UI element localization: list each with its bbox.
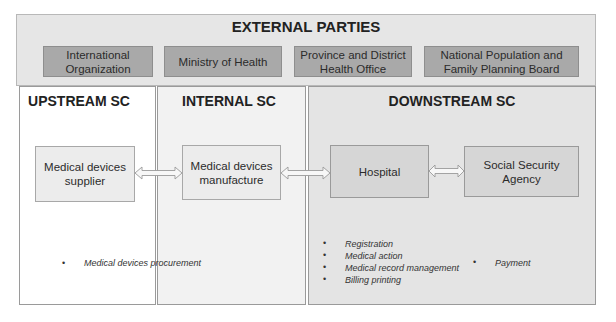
activity-text: Medical devices procurement xyxy=(84,257,201,269)
bullet: • xyxy=(62,258,84,268)
bullet: • xyxy=(323,238,345,250)
double-arrow-icon xyxy=(134,166,183,180)
node-hospital: Hospital xyxy=(330,145,429,198)
list-item: •Payment xyxy=(473,257,573,269)
upstream-title: UPSTREAM SC xyxy=(19,93,139,109)
party-province-district-health-office: Province and DistrictHealth Office xyxy=(294,46,412,77)
node-label: manufacture xyxy=(200,174,264,186)
party-ministry-of-health: Ministry of Health xyxy=(164,46,282,77)
party-label: Family Planning Board xyxy=(444,63,560,75)
bullet: • xyxy=(323,274,345,286)
party-national-population-board: National Population andFamily Planning B… xyxy=(424,46,579,77)
double-arrow-icon xyxy=(280,166,331,180)
double-arrow-icon xyxy=(428,164,465,178)
activity-text: Medical action xyxy=(345,250,403,262)
node-label: Social Security xyxy=(483,159,559,171)
bullet: • xyxy=(473,257,495,269)
agency-activity-list: •Payment xyxy=(473,257,573,269)
list-item: • Medical devices procurement xyxy=(62,257,262,269)
party-label: International xyxy=(66,49,129,61)
list-item: •Registration xyxy=(323,238,473,250)
node-social-security-agency: Social SecurityAgency xyxy=(464,146,579,197)
activity-text: Registration xyxy=(345,238,393,250)
party-label: National Population and xyxy=(440,49,562,61)
node-label: Agency xyxy=(502,173,540,185)
party-label: Province and District xyxy=(300,49,405,61)
bullet: • xyxy=(323,262,345,274)
node-label: Medical devices xyxy=(191,160,273,172)
bullet: • xyxy=(323,250,345,262)
list-item: •Billing printing xyxy=(323,274,473,286)
party-label: Health Office xyxy=(320,63,386,75)
party-label: Organization xyxy=(65,63,130,75)
party-international-organization: InternationalOrganization xyxy=(43,46,153,77)
internal-title: INTERNAL SC xyxy=(170,93,288,109)
upstream-activity-list: • Medical devices procurement xyxy=(62,257,262,269)
node-label: Hospital xyxy=(359,166,401,178)
external-parties-title: EXTERNAL PARTIES xyxy=(16,18,596,35)
party-label: Ministry of Health xyxy=(179,56,268,68)
node-label: Medical devices xyxy=(44,161,126,173)
activity-text: Billing printing xyxy=(345,274,401,286)
downstream-title: DOWNSTREAM SC xyxy=(308,93,596,109)
activity-text: Medical record management xyxy=(345,262,459,274)
list-item: •Medical action xyxy=(323,250,473,262)
activity-text: Payment xyxy=(495,257,531,269)
node-label: supplier xyxy=(65,175,105,187)
node-medical-devices-supplier: Medical devicessupplier xyxy=(35,146,135,202)
hospital-activity-list: •Registration •Medical action •Medical r… xyxy=(323,238,473,286)
node-medical-devices-manufacture: Medical devicesmanufacture xyxy=(182,145,281,200)
list-item: •Medical record management xyxy=(323,262,473,274)
